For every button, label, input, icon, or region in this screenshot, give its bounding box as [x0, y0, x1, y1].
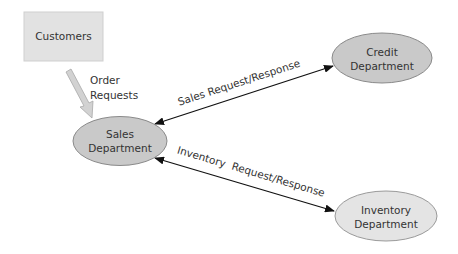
sales-department-label-line1: Sales — [106, 128, 134, 140]
sales-department-node[interactable]: Sales Department — [73, 117, 167, 166]
inventory-department-label-line2: Department — [354, 218, 418, 230]
order-requests-label-line1: Order — [90, 74, 121, 86]
sales-request-response-edge: Sales Request/Response — [155, 57, 333, 124]
sales-department-ellipse — [73, 117, 167, 166]
inventory-department-label-line1: Inventory — [361, 204, 411, 216]
block-arrow-icon — [66, 69, 93, 118]
order-requests-label-line2: Requests — [90, 89, 138, 101]
customers-node[interactable]: Customers — [24, 12, 103, 61]
data-flow-diagram: Customers Order Requests Sales Request/R… — [0, 0, 458, 254]
credit-department-label-line2: Department — [350, 60, 414, 72]
customers-label: Customers — [35, 30, 91, 42]
sales-department-label-line2: Department — [88, 142, 152, 154]
credit-department-ellipse — [332, 33, 432, 83]
order-requests-edge: Order Requests — [66, 69, 138, 118]
inventory-request-response-edge: Inventory Request/Response — [155, 144, 334, 211]
inventory-department-ellipse — [335, 191, 437, 241]
credit-department-node[interactable]: Credit Department — [332, 33, 432, 83]
inventory-department-node[interactable]: Inventory Department — [335, 191, 437, 241]
credit-department-label-line1: Credit — [366, 46, 398, 58]
